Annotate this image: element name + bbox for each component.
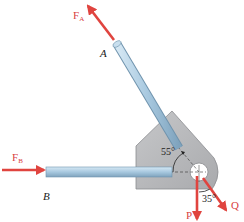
member-b-rod	[46, 167, 172, 177]
force-label-p: P	[186, 210, 192, 221]
point-label-b: B	[43, 191, 50, 202]
force-label-fb: FB	[12, 152, 23, 165]
angle-label-35: 35°	[202, 194, 216, 204]
force-arrow-fa	[88, 6, 114, 40]
angle-label-55: 55°	[161, 147, 175, 157]
force-label-fa: FA	[73, 10, 84, 23]
diagram-canvas	[0, 0, 244, 222]
angle-arc-35	[199, 189, 210, 192]
force-label-q: Q	[231, 200, 239, 211]
point-label-a: A	[100, 48, 107, 59]
